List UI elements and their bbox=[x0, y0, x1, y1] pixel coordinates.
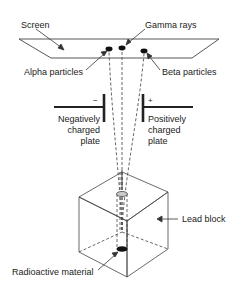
svg-text:charged: charged bbox=[67, 125, 100, 135]
label-positive-plate: Positively charged plate bbox=[148, 114, 187, 146]
svg-text:Positively: Positively bbox=[148, 114, 187, 124]
svg-text:charged: charged bbox=[148, 125, 181, 135]
pointer-arrows bbox=[36, 29, 178, 270]
label-gamma-rays: Gamma rays bbox=[145, 20, 197, 30]
label-beta-particles: Beta particles bbox=[162, 67, 217, 77]
label-alpha-particles: Alpha particles bbox=[24, 67, 84, 77]
beta-spot bbox=[141, 49, 148, 54]
label-radioactive-material: Radioactive material bbox=[12, 267, 94, 277]
lead-block bbox=[79, 172, 168, 277]
label-negative-plate: Negatively charged plate bbox=[58, 114, 101, 146]
label-lead-block: Lead block bbox=[182, 214, 226, 224]
gamma-spot bbox=[119, 46, 126, 51]
borehole bbox=[117, 192, 128, 252]
positive-sign: + bbox=[148, 96, 153, 105]
svg-text:plate: plate bbox=[148, 136, 168, 146]
label-screen: Screen bbox=[21, 20, 50, 30]
svg-text:plate: plate bbox=[80, 136, 100, 146]
negative-sign: − bbox=[93, 96, 98, 105]
radioactive-source bbox=[117, 246, 128, 252]
radiation-diagram: Screen Gamma rays Alpha particles Beta p… bbox=[0, 0, 240, 293]
borehole-opening bbox=[117, 192, 128, 197]
svg-text:Negatively: Negatively bbox=[58, 114, 101, 124]
beam-paths bbox=[109, 51, 144, 230]
